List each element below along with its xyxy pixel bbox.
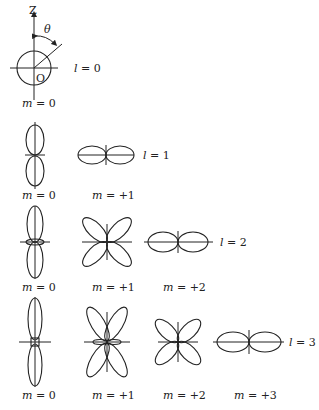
radius-line (34, 44, 62, 68)
plot-l3-m0 (19, 297, 51, 387)
l3-label: l = 3 (289, 336, 316, 349)
plot-l1-m1 (78, 145, 134, 165)
m-label-l3-m3: m = +3 (234, 389, 277, 402)
plot-l1-m0 (25, 122, 45, 189)
plot-l2-m1 (79, 214, 136, 271)
m-label-l1-m1: m = +1 (92, 189, 135, 202)
plot-l2-m0 (20, 206, 50, 279)
l2-label: l = 2 (220, 236, 247, 249)
m-label-l2-m1: m = +1 (92, 281, 135, 294)
plot-l0-m0: Z θ O (10, 4, 62, 100)
m-label-l3-m2: m = +2 (163, 389, 206, 402)
m-label-l3-m0: m = 0 (22, 389, 56, 402)
m-label-l0-m0: m = 0 (22, 97, 56, 110)
z-axis-label: Z (29, 4, 37, 17)
theta-arc (35, 36, 55, 44)
plot-l2-m2 (144, 231, 213, 253)
origin-label: O (36, 72, 45, 85)
plot-l3-m2 (151, 315, 204, 368)
theta-label: θ (44, 23, 51, 36)
m-label-l1-m0: m = 0 (22, 189, 56, 202)
plot-l3-m3 (213, 330, 284, 354)
l0-label: l = 0 (74, 62, 101, 75)
plot-l3-m1 (82, 304, 131, 380)
orbital-diagram: Z θ O l = 0 m = 0 m = 0 m = +1 l = 1 m =… (0, 0, 319, 410)
l1-label: l = 1 (143, 149, 170, 162)
m-label-l2-m2: m = +2 (163, 281, 206, 294)
m-label-l2-m0: m = 0 (22, 281, 56, 294)
m-label-l3-m1: m = +1 (92, 389, 135, 402)
